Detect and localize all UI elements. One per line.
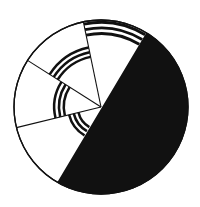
segmented-circle-diagram <box>0 0 200 207</box>
diagram-canvas: segmented-circle <box>0 0 200 207</box>
